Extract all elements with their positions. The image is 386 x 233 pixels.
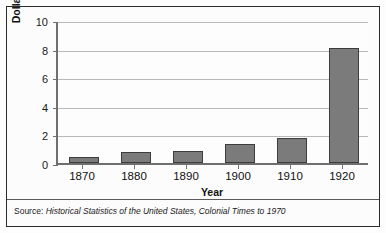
x-axis-tick bbox=[342, 165, 343, 169]
source-note: Source: Historical Statistics of the Uni… bbox=[14, 206, 286, 216]
x-axis-tick-label: 1880 bbox=[121, 170, 147, 182]
bar-slot bbox=[162, 22, 214, 163]
x-axis-tick bbox=[290, 165, 291, 169]
x-axis-tick bbox=[186, 165, 187, 169]
plot-area bbox=[56, 22, 368, 165]
x-axis-tick-label: 1900 bbox=[225, 170, 251, 182]
bar-1900 bbox=[225, 144, 255, 163]
chart-figure: Dollars (in billions) 0246810 1870188018… bbox=[0, 0, 386, 233]
x-axis-tick-label: 1920 bbox=[329, 170, 355, 182]
y-axis-tick-label: 0 bbox=[42, 160, 48, 171]
x-axis: 187018801890190019101920 bbox=[56, 165, 368, 187]
bar-1890 bbox=[173, 151, 203, 163]
bar-slot bbox=[110, 22, 162, 163]
x-axis-tick-label: 1910 bbox=[277, 170, 303, 182]
bar-slot bbox=[266, 22, 318, 163]
x-axis-tick bbox=[82, 165, 83, 169]
y-axis-tick-label: 8 bbox=[42, 45, 48, 56]
y-axis-tick-label: 10 bbox=[36, 17, 48, 28]
bar-1880 bbox=[121, 152, 151, 163]
bar-1870 bbox=[69, 157, 99, 163]
x-axis-tick-label: 1890 bbox=[173, 170, 199, 182]
bar-slot bbox=[318, 22, 370, 163]
bar-1910 bbox=[277, 138, 307, 163]
y-axis-tick-label: 6 bbox=[42, 74, 48, 85]
x-axis-tick bbox=[134, 165, 135, 169]
x-axis-tick-label: 1870 bbox=[69, 170, 95, 182]
footer-divider bbox=[7, 199, 379, 200]
bar-slot bbox=[214, 22, 266, 163]
bar-slot bbox=[58, 22, 110, 163]
bar-series bbox=[58, 22, 368, 163]
x-axis-tick bbox=[238, 165, 239, 169]
source-label: Source: bbox=[14, 206, 43, 216]
bar-1920 bbox=[329, 48, 359, 163]
y-axis-tick-label: 2 bbox=[42, 131, 48, 142]
y-axis-tick-label: 4 bbox=[42, 102, 48, 113]
source-title: Historical Statistics of the United Stat… bbox=[46, 206, 286, 216]
x-axis-title: Year bbox=[56, 186, 368, 198]
